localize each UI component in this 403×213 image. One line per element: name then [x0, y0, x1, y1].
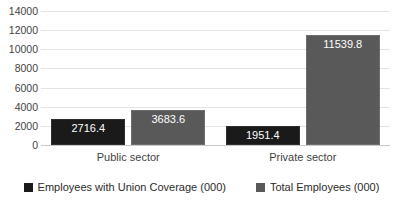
x-axis-category-label: Private sector [216, 150, 391, 164]
y-axis-tick-label: 2000 [2, 121, 38, 132]
y-axis-tick-label: 4000 [2, 101, 38, 112]
x-axis-category-label: Public sector [41, 150, 216, 164]
footer-text-cropped [6, 203, 266, 213]
plot-area: 2716.43683.61951.411539.8 [41, 11, 390, 145]
y-axis-tick-label: 12000 [2, 25, 38, 36]
bar[interactable]: 3683.6 [131, 110, 205, 145]
bar[interactable]: 2716.4 [51, 119, 125, 145]
legend-swatch-icon [24, 183, 33, 192]
y-axis: 02000400060008000100001200014000 [0, 11, 38, 145]
chart-title-cropped [100, 0, 310, 2]
y-axis-tick-label: 6000 [2, 82, 38, 93]
bar[interactable]: 1951.4 [226, 126, 300, 145]
bar-value-label: 11539.8 [307, 38, 379, 51]
bar[interactable]: 11539.8 [306, 35, 380, 145]
axis-baseline [41, 145, 390, 146]
gridline [41, 30, 390, 31]
bar-value-label: 2716.4 [52, 122, 124, 135]
legend-label: Employees with Union Coverage (000) [38, 181, 226, 194]
legend-swatch-icon [256, 183, 265, 192]
bar-value-label: 3683.6 [132, 113, 204, 126]
bar-chart: 02000400060008000100001200014000 2716.43… [0, 0, 403, 213]
legend-item[interactable]: Total Employees (000) [256, 181, 379, 194]
x-axis-category-labels: Public sectorPrivate sector [41, 150, 390, 166]
y-axis-tick-label: 10000 [2, 44, 38, 55]
y-axis-tick-label: 8000 [2, 63, 38, 74]
gridline [41, 11, 390, 12]
y-axis-tick-label: 14000 [2, 6, 38, 17]
legend-label: Total Employees (000) [270, 181, 379, 194]
y-axis-tick-label: 0 [2, 140, 38, 151]
legend-item[interactable]: Employees with Union Coverage (000) [24, 181, 226, 194]
bar-value-label: 1951.4 [227, 129, 299, 142]
chart-legend: Employees with Union Coverage (000)Total… [0, 177, 403, 197]
